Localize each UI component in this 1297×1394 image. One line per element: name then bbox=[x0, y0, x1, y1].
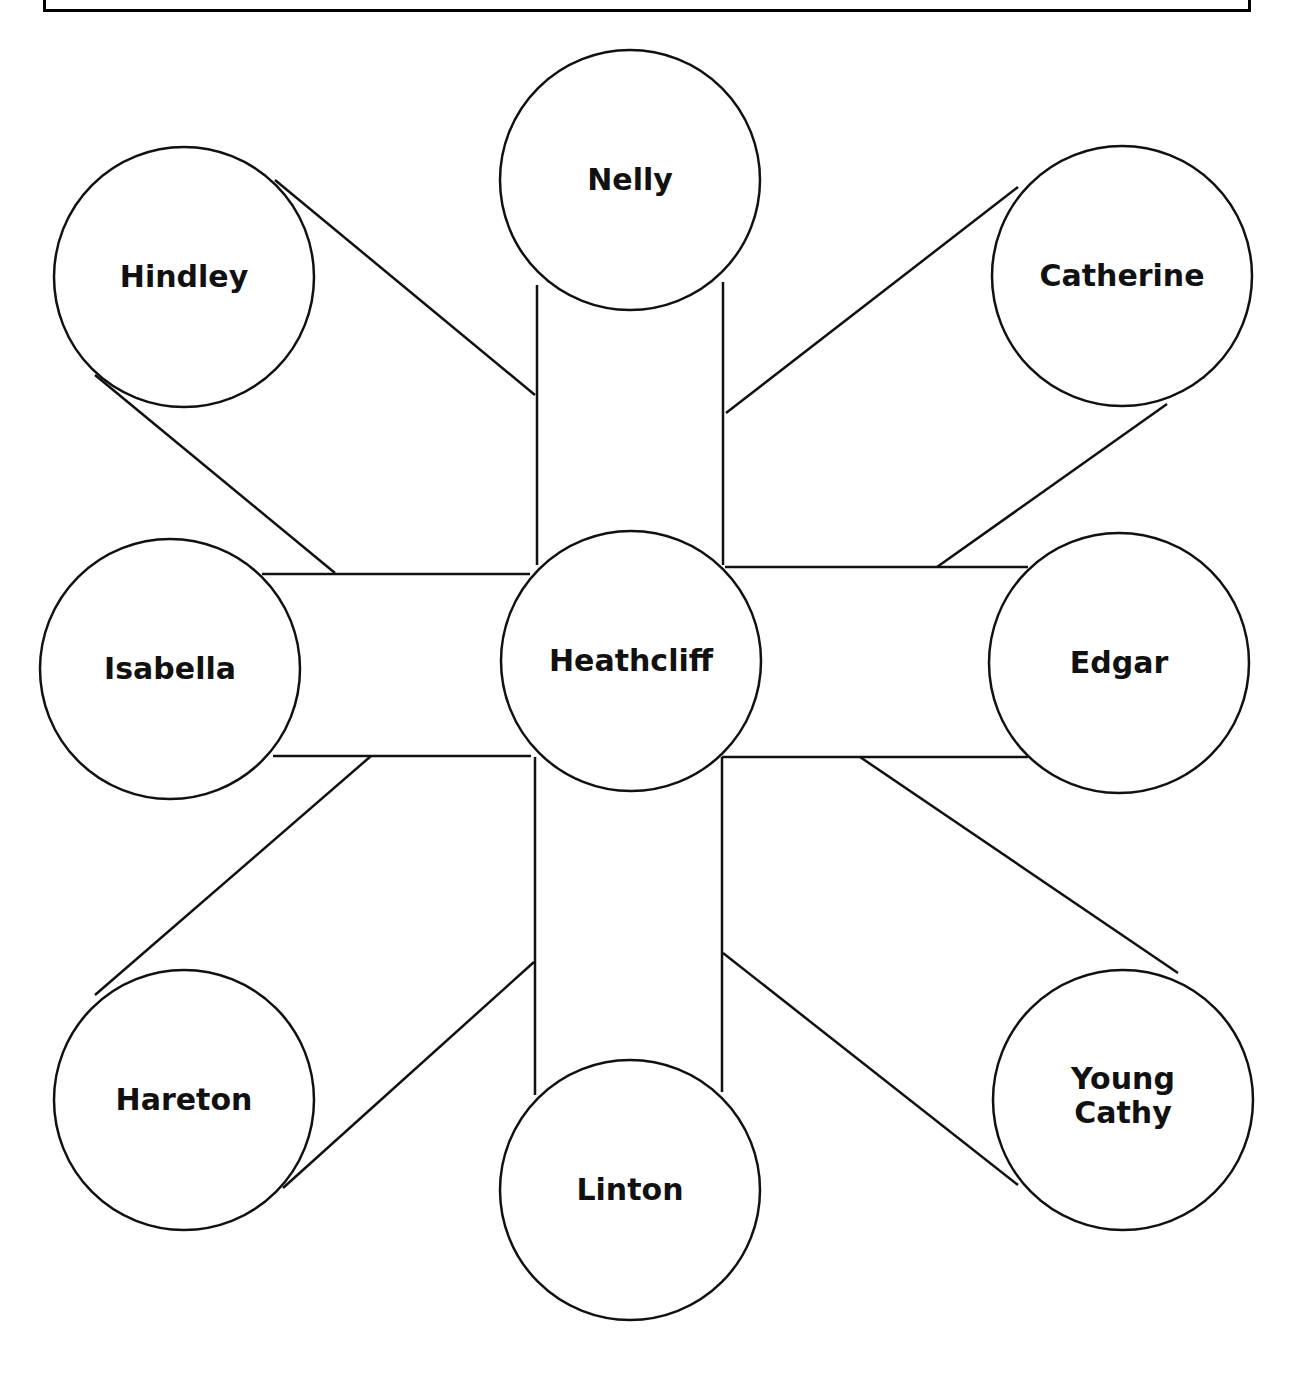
node-label: Hindley bbox=[120, 259, 249, 294]
character-web-diagram: NellyHindleyCatherineIsabellaEdgarHareto… bbox=[0, 0, 1297, 1394]
node-heathcliff: Heathcliff bbox=[501, 531, 761, 791]
nodes: NellyHindleyCatherineIsabellaEdgarHareto… bbox=[40, 50, 1253, 1320]
node-label: Cathy bbox=[1074, 1095, 1172, 1130]
node-catherine: Catherine bbox=[992, 146, 1252, 406]
node-label: Nelly bbox=[587, 162, 673, 197]
node-edgar: Edgar bbox=[989, 533, 1249, 793]
node-label: Isabella bbox=[104, 651, 236, 686]
node-label: Catherine bbox=[1039, 258, 1204, 293]
node-young-cathy: YoungCathy bbox=[993, 970, 1253, 1230]
node-hareton: Hareton bbox=[54, 970, 314, 1230]
node-label: Linton bbox=[576, 1172, 683, 1207]
node-isabella: Isabella bbox=[40, 539, 300, 799]
node-label: Hareton bbox=[116, 1082, 253, 1117]
node-hindley: Hindley bbox=[54, 147, 314, 407]
node-linton: Linton bbox=[500, 1060, 760, 1320]
connector-line-young-cathy bbox=[723, 953, 1018, 1185]
node-label: Young bbox=[1070, 1061, 1175, 1096]
node-nelly: Nelly bbox=[500, 50, 760, 310]
connector-line-catherine bbox=[726, 187, 1018, 413]
connector-line-hareton bbox=[283, 962, 534, 1188]
node-label: Heathcliff bbox=[549, 643, 714, 678]
connector-line-hindley bbox=[95, 375, 335, 573]
node-label: Edgar bbox=[1070, 645, 1169, 680]
